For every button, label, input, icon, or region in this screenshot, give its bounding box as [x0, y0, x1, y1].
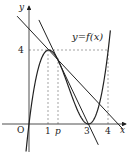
graph: y=f(x) y x O 4 1 p 3 4	[0, 0, 135, 158]
x-tick-4: 4	[105, 126, 111, 136]
function-label: y=f(x)	[71, 31, 103, 42]
x-tick-1: 1	[45, 126, 51, 136]
origin-label: O	[17, 125, 24, 135]
x-axis-label: x	[120, 125, 125, 135]
secant-line	[17, 16, 123, 129]
x-tick-3: 3	[84, 126, 90, 136]
y-tick-4: 4	[18, 45, 24, 55]
y-axis-label: y	[18, 2, 25, 12]
function-curve	[26, 30, 110, 151]
x-tick-p: p	[55, 126, 61, 136]
